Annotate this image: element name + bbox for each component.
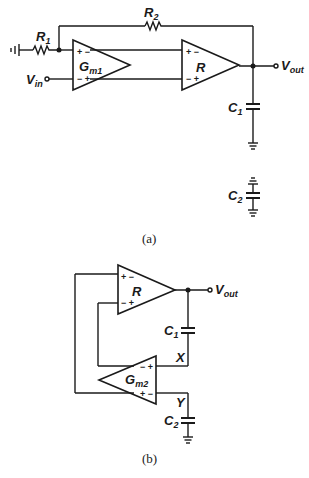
ground-icon	[248, 210, 258, 216]
ground-icon	[11, 44, 33, 56]
r-amp-label: R	[196, 60, 206, 75]
caption-b: (b)	[142, 451, 157, 466]
r-amp-label: R	[132, 284, 142, 299]
circuit-diagram: R1 R2 Vin + − − + Gm1 + − − + R Vout	[0, 0, 309, 478]
vout-terminal	[274, 64, 278, 68]
ground-icon	[248, 178, 258, 184]
gm2-bottom-signs: + −	[140, 389, 153, 399]
vout-label: Vout	[215, 282, 239, 299]
ground-icon	[183, 437, 193, 443]
c2-label: C2	[228, 188, 242, 205]
vin-terminal	[45, 77, 49, 81]
r2-label: R2	[144, 5, 158, 22]
figure-b: + − − + R Vout C1 X − + + − Gm2 Y	[75, 265, 239, 466]
resistor-r1	[33, 46, 59, 54]
r-top-signs: + −	[121, 272, 134, 282]
resistor-r2	[145, 22, 253, 30]
vout-terminal	[208, 288, 212, 292]
vin-label: Vin	[26, 72, 43, 89]
r1-label: R1	[36, 29, 50, 46]
c1-label: C1	[228, 100, 242, 117]
gm2-top-signs: − +	[140, 362, 153, 372]
node-x-label: X	[175, 350, 186, 365]
r-top-signs: + −	[186, 47, 199, 57]
gm1-top-signs: + −	[77, 47, 90, 57]
r-bottom-signs: − +	[121, 298, 134, 308]
vout-label: Vout	[281, 58, 305, 75]
ground-icon	[248, 143, 258, 149]
gm1-bottom-signs: − +	[77, 74, 90, 84]
node-y-label: Y	[176, 395, 186, 410]
r-bottom-signs: − +	[186, 74, 199, 84]
figure-a: R1 R2 Vin + − − + Gm1 + − − + R Vout	[11, 5, 305, 246]
c1-label: C1	[164, 323, 178, 340]
caption-a: (a)	[142, 231, 156, 246]
c2-label: C2	[164, 413, 178, 430]
